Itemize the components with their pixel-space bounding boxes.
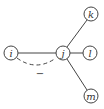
dashed-curve-i-j <box>17 58 56 65</box>
svg-text:k: k <box>88 9 94 20</box>
node-l: l <box>83 46 97 60</box>
edge-j-m <box>67 59 87 90</box>
node-m: m <box>84 89 98 103</box>
minus-sign: − <box>36 68 44 79</box>
node-j: j <box>56 46 70 60</box>
svg-text:m: m <box>86 91 95 102</box>
graph-diagram: − i j k l m <box>0 0 104 109</box>
svg-text:i: i <box>9 48 12 59</box>
graph-svg: − i j k l m <box>0 0 104 109</box>
node-k: k <box>84 7 98 21</box>
svg-text:l: l <box>88 48 91 59</box>
edge-j-k <box>67 20 87 47</box>
node-i: i <box>4 46 18 60</box>
